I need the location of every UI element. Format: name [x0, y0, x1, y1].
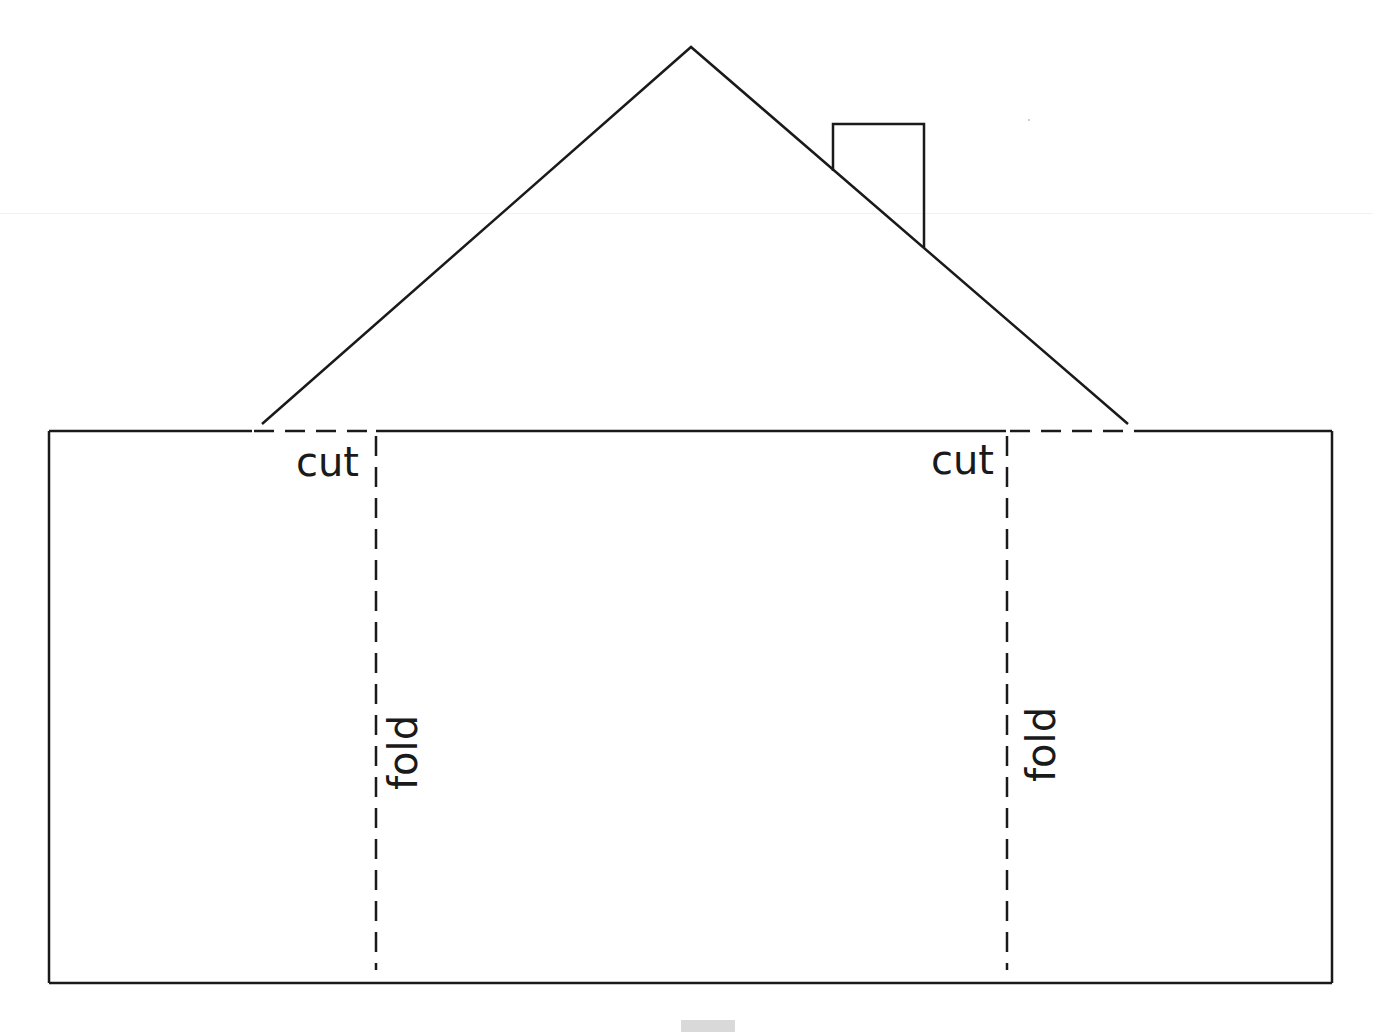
cut-label-left: cut — [296, 439, 359, 485]
house-template-diagram: cut cut fold fold — [0, 0, 1373, 1032]
roof — [262, 47, 1128, 424]
fold-lines — [376, 436, 1007, 970]
scan-speck — [1028, 119, 1030, 121]
base-rectangle — [49, 431, 1332, 983]
chimney — [833, 124, 924, 248]
cut-label-right: cut — [931, 437, 994, 483]
page-marker — [681, 1020, 735, 1032]
fold-label-left: fold — [380, 715, 426, 790]
fold-label-right: fold — [1018, 707, 1064, 782]
